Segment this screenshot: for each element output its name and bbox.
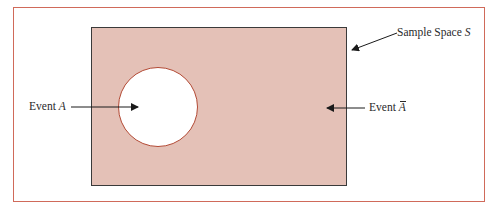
event-a-complement-label-text: Event [369,101,399,113]
event-a-complement-symbol: A [399,101,406,113]
event-a-symbol: A [59,100,66,112]
sample-space-label-text: Sample Space [397,26,465,38]
event-a-complement-label: Event A [369,101,406,113]
sample-space-arrow [352,33,397,50]
sample-space-symbol: S [465,26,471,38]
sample-space-label: Sample Space S [397,26,470,38]
event-a-label-text: Event [29,100,59,112]
event-a-label: Event A [29,100,66,112]
